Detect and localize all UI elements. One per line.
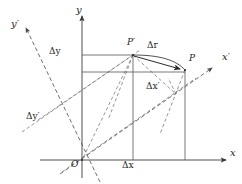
p-prime-to-origin-dashed [82,55,133,160]
p-prime-to-y-prime-foot [60,55,133,105]
y-prime-axis-line [26,28,100,182]
point-markers [81,54,186,161]
delta-y-prime-label: Δy′ [26,112,40,121]
delta-r-group [133,55,185,70]
delta-r-arrow [134,56,180,69]
x-prime-axis-label: x′ [222,52,230,62]
figure-container: y x y′ x′ O P P′ Δy Δx Δr Δx′ Δy′ [0,0,242,184]
delta-y-prime-tick [38,105,60,120]
point-p-prime-label: P′ [127,38,135,47]
delta-x-prime-label: Δx′ [146,82,160,91]
delta-x-label: Δx [122,161,134,170]
delta-y-label: Δy [49,47,61,56]
p-prime-dot [132,54,134,56]
y-axis-label: y [76,5,82,15]
diagram-canvas [0,0,242,184]
origin-dot [81,159,83,161]
x-axis-label: x [230,148,236,158]
origin-label: O [71,160,78,169]
y-prime-parallel-through-p-prime [108,55,133,120]
delta-x-prime-tick [168,78,176,94]
delta-r-label: Δr [147,41,158,50]
y-prime-axis-label: y′ [11,19,19,29]
x-prime-axis-line [60,68,212,174]
point-p-label: P [189,54,195,63]
unprimed-projection-lines [82,55,185,160]
primed-grid-construction [22,50,196,172]
p-dot [184,69,186,71]
